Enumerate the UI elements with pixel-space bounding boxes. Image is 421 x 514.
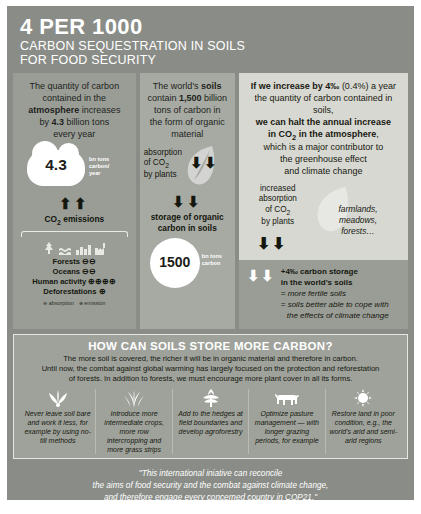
solution-lead-text: If we increase by 4‰ (0.4%) a year the q… xyxy=(239,73,408,182)
solution-outcome-block: ⬇⬇ +4‰ carbon storage in the world's soi… xyxy=(239,260,408,329)
co2-prefix: in CO xyxy=(268,129,292,139)
infographic-poster: 4 PER 1000 CARBON SEQUESTRATION IN SOILS… xyxy=(7,6,414,500)
absorption-line-2-pre: of CO xyxy=(144,158,165,167)
increased-line-2: absorption xyxy=(259,194,297,203)
emissions-suffix: emissions xyxy=(61,214,104,224)
quote-text: "This international iniative can reconci… xyxy=(33,468,388,500)
panel-sub-line-3: of forests. In addition to forests, we m… xyxy=(69,374,353,383)
practice-icon-wrap xyxy=(329,389,398,407)
solution-lead-2: the quantity of carbon contained in soil… xyxy=(255,93,393,115)
storage-down-arrows-icon: ⬇⬇ xyxy=(140,194,235,209)
practice-icon-wrap xyxy=(176,389,245,407)
cow-icon xyxy=(274,392,300,407)
lead-line-4-pre: by xyxy=(40,117,52,127)
panel-title: HOW CAN SOILS STORE MORE CARBON? xyxy=(20,340,401,352)
carbon-bubble-unit: bn tons carbon/ year xyxy=(89,156,109,177)
farmlands-line-2: meadows, xyxy=(339,215,377,225)
page-subtitle: CARBON SEQUESTRATION IN SOILS FOR FOOD S… xyxy=(20,39,414,67)
lead-line-1: The quantity of carbon xyxy=(30,81,120,91)
co2-subscript: 2 xyxy=(287,208,291,215)
wheat-field-icon xyxy=(47,390,69,407)
unit-line-2: carbon xyxy=(202,260,221,266)
solution-lead-5: which is a major contributor to xyxy=(264,142,384,152)
lead-line-5: every year xyxy=(53,129,95,139)
soils-value-bold: 1,500 xyxy=(179,93,202,103)
practices-list: Never leave soil bare and work it less, … xyxy=(20,389,401,454)
column-soils: The world's soils contain 1,500 billion … xyxy=(140,73,235,329)
solution-lead-7: and climate change xyxy=(284,166,362,176)
carbon-bubble: 4.3 bn tons carbon/ year xyxy=(13,144,136,196)
lead-line-3-rest: increases xyxy=(79,105,120,115)
store-line-5: the effects of climate change xyxy=(281,310,389,321)
storage-line-1: storage of organic xyxy=(151,212,224,222)
increased-absorption-label: increased absorption of CO2 by plants xyxy=(247,184,309,227)
emissions-up-arrows-icon: ⬆⬆ xyxy=(13,196,136,211)
storage-outcome-text: +4‰ carbon storage in the world's soils … xyxy=(281,266,389,321)
practice-icon-wrap xyxy=(23,389,92,407)
hedge-tree-icon xyxy=(201,389,221,407)
source-row: Forests ⊖⊖ xyxy=(13,257,136,267)
source-row: Oceans ⊖⊖ xyxy=(13,267,136,277)
lead-line-2: contained in the xyxy=(43,93,107,103)
co2-emissions-label: CO2 emissions xyxy=(13,214,136,227)
lead-line-4-rest: billion tons xyxy=(64,117,109,127)
unit-line-3: year xyxy=(89,170,101,176)
practice-item: Never leave soil bare and work it less, … xyxy=(20,389,96,454)
absorption-block: absorption of CO2 by plants ⬇⬇ xyxy=(140,144,235,190)
solution-bold-3: we can halt the annual increase xyxy=(256,117,391,127)
practice-text: Introduce more intermediate crops, more … xyxy=(99,409,168,454)
soils-lead-3: tons of carbon in xyxy=(154,105,221,115)
sources-bracket xyxy=(21,231,128,237)
soils-lead-4: the form of organic xyxy=(150,117,225,127)
quote-block: "This international iniative can reconci… xyxy=(7,459,414,500)
ocean-waves-icon xyxy=(59,246,73,255)
soils-bold: soils xyxy=(201,81,222,91)
storage-label: storage of organic carbon in soils xyxy=(140,212,235,233)
farmlands-line-3: forests… xyxy=(341,226,375,236)
tree-icon xyxy=(42,242,56,255)
quote-line-2: the aims of food security and the combat… xyxy=(93,481,329,490)
absorption-line-3: by plants xyxy=(144,170,177,179)
solution-lead-6: the greenhouse effect xyxy=(280,154,367,164)
quote-line-1: "This international iniative can reconci… xyxy=(139,469,283,478)
city-buildings-icon xyxy=(76,244,91,255)
poster-header: 4 PER 1000 CARBON SEQUESTRATION IN SOILS… xyxy=(7,6,414,73)
store-line-4: = soils better able to cope with xyxy=(281,300,389,309)
solution-lead-1-rest: (0.4%) a year xyxy=(339,81,396,91)
absorption-emission-legend: ⊖ absorption ⊕ emission xyxy=(13,300,136,306)
source-marks: ⊖⊖ xyxy=(82,267,96,276)
practice-icon-wrap xyxy=(252,389,321,407)
increased-absorption-arrows-icon: ⬇⬇ xyxy=(257,234,287,253)
source-marks: ⊖⊖ xyxy=(82,257,96,266)
page-title: 4 PER 1000 xyxy=(20,15,414,38)
increased-line-1: increased xyxy=(260,184,296,193)
source-name: Forests xyxy=(53,257,80,266)
practice-text: Optimize pasture management — with longe… xyxy=(252,409,321,445)
emission-sources-list: Forests ⊖⊖ Oceans ⊖⊖ Human activity ⊕⊕⊕⊕… xyxy=(13,257,136,308)
panel-sub-line-1: The more soil is covered, the richer it … xyxy=(63,354,358,363)
source-marks: ⊕ xyxy=(99,287,106,296)
lead-value-bold: 4.3 xyxy=(52,117,65,127)
storage-outcome: ⬇⬇ +4‰ carbon storage in the world's soi… xyxy=(247,266,402,321)
increased-line-4: by plants xyxy=(261,217,294,226)
source-name: Deforestations xyxy=(43,287,96,296)
store-bold: +4‰ xyxy=(281,267,298,276)
unit-line-1: bn tons xyxy=(89,156,109,162)
soils-lead-5: material xyxy=(171,129,203,139)
atmosphere-lead-text: The quantity of carbon contained in the … xyxy=(13,73,136,144)
soil-carbon-value: 1500 xyxy=(150,254,200,270)
soils-lead-2-post: billion xyxy=(202,93,228,103)
column-solution: If we increase by 4‰ (0.4%) a year the q… xyxy=(239,73,408,329)
store-line-3: = more fertile soils xyxy=(281,289,346,298)
solution-upper: If we increase by 4‰ (0.4%) a year the q… xyxy=(239,73,408,260)
grass-icon xyxy=(124,390,144,407)
solution-bold-4-post: in the atmosphere xyxy=(296,129,376,139)
practice-item: Introduce more intermediate crops, more … xyxy=(96,389,172,454)
source-row: Human activity ⊕⊕⊕⊕ xyxy=(13,277,136,287)
practice-item: Restore land in poor condition, e.g., th… xyxy=(326,389,401,454)
source-name: Oceans xyxy=(53,267,80,276)
store-line-1-rest: carbon storage xyxy=(298,267,358,276)
practice-icon-wrap xyxy=(99,389,168,407)
factory-icon xyxy=(94,243,107,255)
source-marks: ⊕⊕⊕⊕ xyxy=(88,277,116,286)
